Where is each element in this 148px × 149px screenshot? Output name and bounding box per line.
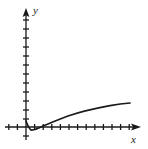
graph-figure: y x bbox=[0, 0, 148, 149]
y-axis-label: y bbox=[32, 4, 38, 16]
coordinate-plot: y x bbox=[0, 0, 148, 149]
x-axis-label: x bbox=[130, 133, 136, 145]
